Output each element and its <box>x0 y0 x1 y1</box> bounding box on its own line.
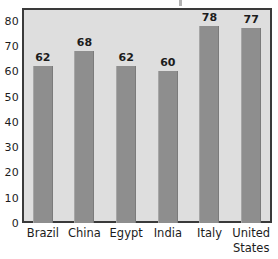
x-axis-category-line: United <box>230 226 272 241</box>
bar <box>158 71 178 223</box>
x-axis-category-line: Brazil <box>22 226 64 241</box>
x-axis-category-line: China <box>64 226 106 241</box>
bar-value-label: 62 <box>119 51 134 64</box>
bar-value-label: 60 <box>160 56 175 69</box>
bar <box>74 51 94 223</box>
bar-group: 78 <box>189 8 231 223</box>
bar-group: 68 <box>64 8 106 223</box>
bar-chart: 01020304050607080 626862607877 BrazilChi… <box>0 0 278 259</box>
y-axis-tick-label: 80 <box>5 14 19 27</box>
bar-value-label: 77 <box>244 13 259 26</box>
y-axis-tick-label: 50 <box>5 90 19 103</box>
bar-group: 60 <box>147 8 189 223</box>
x-axis-category-line: States <box>230 241 272 256</box>
x-axis-category-label: China <box>64 226 106 241</box>
bar-group: 62 <box>22 8 64 223</box>
bar-value-label: 78 <box>202 11 217 24</box>
y-axis-tick-label: 30 <box>5 141 19 154</box>
bar-group: 77 <box>230 8 272 223</box>
y-axis-tick-label: 40 <box>5 115 19 128</box>
y-axis-tick-label: 60 <box>5 65 19 78</box>
x-axis-category-line: Egypt <box>105 226 147 241</box>
y-axis-tick-label: 70 <box>5 39 19 52</box>
bar <box>116 66 136 223</box>
bar <box>199 26 219 223</box>
x-axis-category-label: Italy <box>189 226 231 241</box>
bars-layer: 626862607877 <box>22 8 272 223</box>
y-axis-tick-label: 10 <box>5 191 19 204</box>
x-axis-category-line: Italy <box>189 226 231 241</box>
x-axis: BrazilChinaEgyptIndiaItalyUnitedStates <box>22 226 272 259</box>
bar-group: 62 <box>105 8 147 223</box>
x-axis-category-label: India <box>147 226 189 241</box>
x-axis-category-label: Egypt <box>105 226 147 241</box>
bar <box>241 28 261 223</box>
x-axis-category-label: UnitedStates <box>230 226 272 256</box>
x-axis-category-label: Brazil <box>22 226 64 241</box>
x-axis-category-line: India <box>147 226 189 241</box>
y-axis-tick-label: 20 <box>5 166 19 179</box>
y-axis-tick-label: 0 <box>12 217 19 230</box>
bar-value-label: 62 <box>35 51 50 64</box>
cropped-edge-artifact <box>179 0 182 6</box>
y-axis: 01020304050607080 <box>0 8 19 223</box>
bar <box>33 66 53 223</box>
bar-value-label: 68 <box>77 36 92 49</box>
